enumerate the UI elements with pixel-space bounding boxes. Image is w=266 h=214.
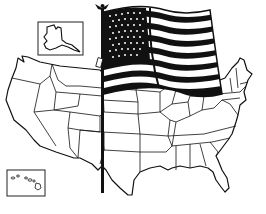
hawaii-inset [7, 170, 45, 196]
flag-canton [104, 8, 150, 69]
alaska-icon [44, 25, 80, 52]
illustration-svg [0, 0, 266, 214]
us-map-flag-illustration [0, 0, 266, 214]
hawaii-islands-icon [11, 175, 41, 190]
alaska-inset [38, 22, 83, 55]
